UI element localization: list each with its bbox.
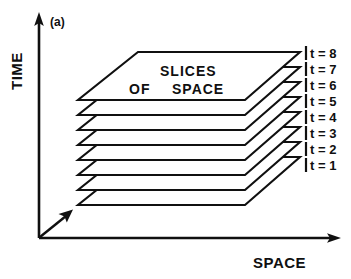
caption-slices: SLICES xyxy=(160,63,217,79)
time-tick-label-t7: t = 7 xyxy=(310,62,336,77)
caption-of: OF xyxy=(129,81,150,97)
depth-axis-line xyxy=(40,216,66,237)
slices-of-space-diagram: t = 8 t = 7 t = 6 t = 5 t = 4 t = 3 t = … xyxy=(0,0,351,279)
time-tick-label-t6: t = 6 xyxy=(310,78,336,93)
time-tick-label-t1: t = 1 xyxy=(310,158,336,173)
time-tick-label-t2: t = 2 xyxy=(310,142,336,157)
time-tick-label-t4: t = 4 xyxy=(310,110,337,125)
panel-label: (a) xyxy=(50,15,65,29)
time-tick-label-t8: t = 8 xyxy=(310,46,336,61)
space-axis-label: SPACE xyxy=(253,254,306,271)
time-axis-label: TIME xyxy=(8,52,25,90)
time-tick-label-t3: t = 3 xyxy=(310,126,336,141)
time-tick-labels: t = 8 t = 7 t = 6 t = 5 t = 4 t = 3 t = … xyxy=(310,46,337,173)
caption-space: SPACE xyxy=(172,81,224,97)
time-tick-label-t5: t = 5 xyxy=(310,94,336,109)
figure-container: t = 8 t = 7 t = 6 t = 5 t = 4 t = 3 t = … xyxy=(0,0,351,279)
